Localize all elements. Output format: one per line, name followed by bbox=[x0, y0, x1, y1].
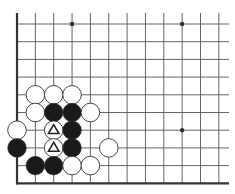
white-stone bbox=[81, 156, 100, 175]
black-stone bbox=[63, 121, 82, 140]
black-stone bbox=[63, 103, 82, 122]
black-stone bbox=[44, 103, 63, 122]
go-diagram bbox=[0, 0, 235, 194]
white-stone bbox=[81, 103, 100, 122]
white-stone bbox=[26, 86, 45, 105]
white-stone bbox=[99, 139, 118, 158]
black-stone bbox=[63, 139, 82, 158]
white-stone bbox=[63, 86, 82, 105]
white-stone bbox=[44, 86, 63, 105]
black-stone bbox=[8, 139, 27, 158]
star-point bbox=[180, 128, 184, 132]
go-board bbox=[0, 0, 235, 194]
star-point bbox=[70, 22, 74, 26]
black-stone bbox=[44, 156, 63, 175]
white-stone bbox=[63, 156, 82, 175]
black-stone bbox=[26, 156, 45, 175]
white-stone bbox=[8, 121, 27, 140]
white-stone bbox=[26, 103, 45, 122]
star-point bbox=[180, 22, 184, 26]
